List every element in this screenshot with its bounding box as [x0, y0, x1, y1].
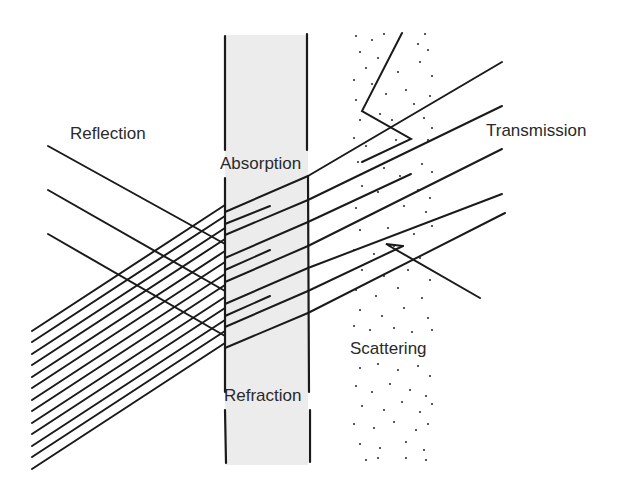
reflection-beams: [48, 146, 225, 336]
transmission-beams: [308, 62, 505, 313]
label-reflection: Reflection: [70, 125, 146, 142]
label-transmission: Transmission: [486, 122, 586, 139]
diagram-graphic: [0, 0, 629, 499]
incident-beams: [32, 205, 225, 469]
label-absorption: Absorption: [220, 155, 301, 172]
label-scattering: Scattering: [350, 340, 427, 357]
label-refraction: Refraction: [224, 387, 301, 404]
diagram: Reflection Absorption Transmission Scatt…: [0, 0, 629, 499]
